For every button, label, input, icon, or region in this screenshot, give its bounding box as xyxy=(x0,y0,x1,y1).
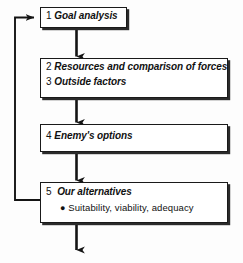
node-label-goal-analysis: 1 Goal analysis xyxy=(46,10,118,21)
node-title-5: Our alternatives xyxy=(57,186,132,197)
node-label-resources: 2 Resources and comparison of forces xyxy=(46,61,227,72)
node-label-our-alternatives: 5 Our alternatives xyxy=(46,186,132,197)
node-bullet-our-alternatives: ● Suitability, viability, adequacy xyxy=(60,202,194,213)
node-label-enemys-options: 4 Enemy's options xyxy=(46,130,132,141)
node-title-1: Goal analysis xyxy=(54,10,117,21)
node-label-outside-factors: 3 Outside factors xyxy=(46,76,126,87)
node-title-4: Enemy's options xyxy=(54,130,132,141)
flowchart-diagram: 1 Goal analysis 2 Resources and comparis… xyxy=(0,0,243,263)
node-title-2: Resources and comparison of forces xyxy=(54,61,227,72)
edge-feedback-loop xyxy=(15,18,40,201)
node-bullet-text: Suitability, viability, adequacy xyxy=(68,202,193,213)
node-title-3: Outside factors xyxy=(54,76,126,87)
